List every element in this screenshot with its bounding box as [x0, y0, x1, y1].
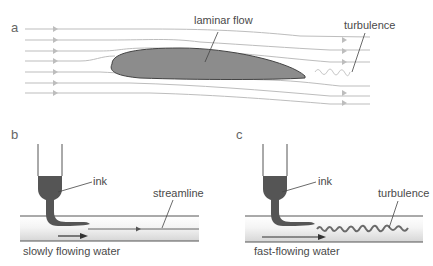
panel-label-c: c	[236, 127, 243, 142]
caption-slow: slowly flowing water	[23, 245, 120, 257]
ink-pointer-c	[282, 182, 316, 192]
label-turbulence-a: turbulence	[344, 19, 395, 31]
ink-pointer-b	[58, 182, 92, 192]
label-turbulence-c: turbulence	[378, 187, 429, 199]
pipe-b	[20, 216, 199, 241]
airfoil	[111, 48, 305, 80]
turbulence-pointer-a	[352, 33, 365, 72]
label-ink-c: ink	[318, 175, 332, 187]
panel-label-a: a	[11, 20, 18, 35]
panel-label-b: b	[11, 127, 18, 142]
label-laminar-flow: laminar flow	[194, 14, 253, 26]
label-ink-b: ink	[93, 175, 107, 187]
flow-diagram	[0, 0, 433, 266]
caption-fast: fast-flowing water	[254, 245, 340, 257]
wake-turbulence	[315, 69, 350, 76]
label-streamline: streamline	[153, 187, 204, 199]
